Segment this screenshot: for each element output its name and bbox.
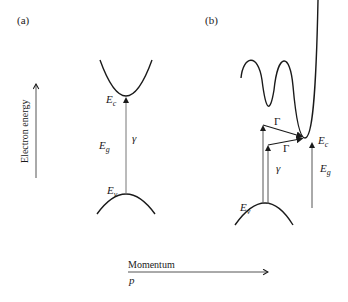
momentum-symbol: p (128, 274, 135, 286)
momentum-axis-label: Momentum (128, 259, 175, 270)
panel-b-diagram: Γ Γ Ec Eg γ Ev (235, 0, 331, 225)
panel-a-label: (a) (17, 14, 30, 27)
ev-label-a: Ev (106, 184, 118, 199)
panel-a-diagram: Ec γ Eg Ev (97, 60, 155, 214)
valence-band-curve-a (97, 194, 155, 214)
band-diagram: (a) (b) Electron energy Ec γ Eg Ev Γ Γ E… (0, 0, 348, 302)
eg-label-a: Eg (98, 139, 110, 154)
ec-label-a: Ec (105, 93, 117, 108)
conduction-band-curve-a (100, 60, 152, 96)
energy-axis-label: Electron energy (19, 100, 30, 163)
energy-axis: Electron energy (19, 84, 36, 178)
photon-label-a: γ (132, 132, 137, 144)
eg-label-b: Eg (319, 162, 331, 177)
photon-label-b: γ (276, 162, 281, 174)
phonon-label-upper-b: Γ (274, 115, 280, 127)
ec-label-b: Ec (317, 134, 329, 149)
panel-b-label: (b) (205, 14, 218, 27)
phonon-label-lower-b: Γ (283, 142, 289, 154)
momentum-axis: Momentum p (128, 259, 268, 286)
phonon-arrow-upper-b (263, 125, 300, 136)
